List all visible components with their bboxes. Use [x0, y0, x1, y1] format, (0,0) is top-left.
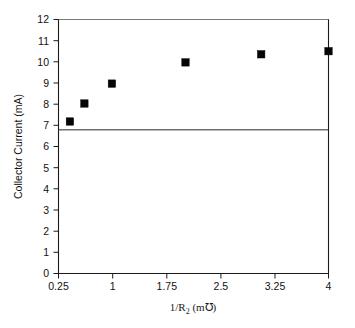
data-point-marker: [325, 48, 332, 55]
y-tick-label: 3: [43, 204, 49, 216]
data-point-marker: [108, 80, 115, 87]
x-axis-title-prefix: 1/R: [170, 301, 187, 313]
y-tick-label: 10: [37, 56, 49, 68]
data-point-marker: [66, 118, 73, 125]
y-tick-label: 2: [43, 225, 49, 237]
y-tick-label: 8: [43, 98, 49, 110]
data-point-marker: [182, 59, 189, 66]
y-tick-label: 9: [43, 77, 49, 89]
y-tick-label: 11: [38, 35, 49, 47]
y-tick-label: 6: [43, 140, 49, 152]
y-tick-label: 4: [43, 183, 49, 195]
y-tick-label: 7: [43, 119, 49, 131]
y-tick-label: 0: [43, 267, 49, 279]
data-point-marker: [81, 100, 88, 107]
figure-caption-strip: [0, 319, 355, 328]
y-tick-label: 1: [43, 246, 49, 258]
x-axis-title-suffix: (m℧): [190, 301, 217, 314]
y-tick-label: 5: [43, 162, 49, 174]
y-tick-label: 12: [37, 13, 49, 25]
x-tick-label: 0.25: [48, 280, 69, 292]
scatter-plot: 0 1 2 3 4 5 6 7 8 9 10 11 12 0.25 1: [0, 0, 355, 328]
y-axis-title: Collector Current (mA): [12, 94, 24, 199]
x-tick-label: 1: [110, 280, 116, 292]
data-point-marker: [258, 51, 265, 58]
x-tick-label: 2.5: [214, 280, 229, 292]
x-tick-label: 1.75: [157, 280, 178, 292]
figure-container: 0 1 2 3 4 5 6 7 8 9 10 11 12 0.25 1: [0, 0, 355, 328]
x-tick-label: 3.25: [265, 280, 286, 292]
x-tick-label: 4: [326, 280, 332, 292]
